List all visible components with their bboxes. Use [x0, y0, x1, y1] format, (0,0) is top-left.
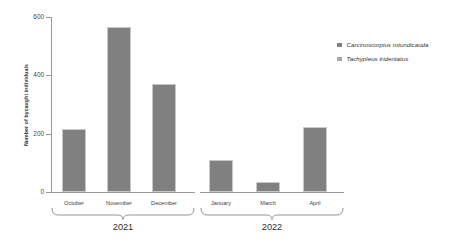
group-brace-2021 [50, 207, 196, 220]
legend-label-tachypleus-tridentatus: Tachypleus tridentatus [347, 55, 409, 63]
y-tick-label-600: 600 [0, 13, 44, 20]
legend: Carcinoscorpius rotundicauda Tachypleus … [337, 41, 428, 69]
x-tick-label-april: April [295, 200, 335, 206]
legend-item-tachypleus-tridentatus: Tachypleus tridentatus [337, 55, 428, 63]
legend-swatch-icon-tachypleus-tridentatus [337, 57, 342, 62]
bar-chart: Number of bycaught individuals 600 400 2… [0, 0, 470, 247]
y-tick-label-400: 400 [0, 71, 44, 78]
y-tick-600 [46, 17, 51, 18]
y-tick-400 [46, 75, 51, 76]
bar-march [256, 182, 280, 192]
group-brace-2022 [199, 207, 345, 220]
bar-april [303, 127, 327, 192]
legend-item-carcinoscorpius-rotundicauda: Carcinoscorpius rotundicauda [337, 41, 428, 49]
x-tick-label-january: January [201, 200, 241, 206]
x-tick-label-november: November [99, 200, 139, 206]
x-axis-line-2021 [51, 192, 195, 193]
legend-swatch-icon-carcinoscorpius-rotundicauda [337, 43, 342, 48]
bar-december [152, 84, 176, 192]
y-tick-200 [46, 134, 51, 135]
legend-label-carcinoscorpius-rotundicauda: Carcinoscorpius rotundicauda [347, 41, 429, 49]
group-label-2022: 2022 [227, 222, 317, 232]
bar-november [107, 27, 131, 192]
y-axis-line [51, 17, 52, 193]
y-tick-label-0: 0 [0, 188, 44, 195]
y-tick-label-200: 200 [0, 130, 44, 137]
x-tick-label-october: October [54, 200, 94, 206]
bar-january [209, 160, 233, 192]
y-axis-title: Number of bycaught individuals [23, 30, 29, 180]
x-tick-label-december: December [144, 200, 184, 206]
group-label-2021: 2021 [78, 222, 168, 232]
bar-october [62, 129, 86, 192]
x-axis-line-2022 [200, 192, 344, 193]
x-tick-label-march: March [248, 200, 288, 206]
